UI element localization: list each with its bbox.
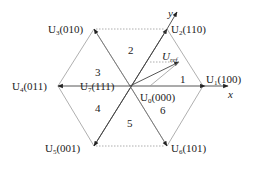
sector-6: 6 (160, 104, 166, 116)
label-uref: Uref (162, 50, 179, 64)
label-u0: U0(000) (140, 91, 176, 105)
sector-3: 3 (95, 66, 101, 78)
sector-5: 5 (127, 117, 133, 129)
label-u5: U5(001) (45, 142, 81, 156)
sector-4: 4 (95, 102, 101, 114)
label-u1: U1(100) (206, 73, 242, 87)
label-u6: U6(101) (171, 142, 207, 156)
label-u7: U7(111) (80, 80, 115, 94)
label-x-axis: x (227, 88, 233, 100)
sector-2: 2 (128, 44, 134, 56)
sector-1: 1 (180, 73, 186, 85)
label-u2: U2(110) (171, 23, 206, 37)
space-vector-diagram: U1(100) U2(110) U3(010) U4(011) U5(001) … (0, 0, 256, 169)
label-u4: U4(011) (12, 80, 47, 94)
label-y-axis: y (167, 7, 173, 19)
label-u3: U3(010) (48, 23, 84, 37)
